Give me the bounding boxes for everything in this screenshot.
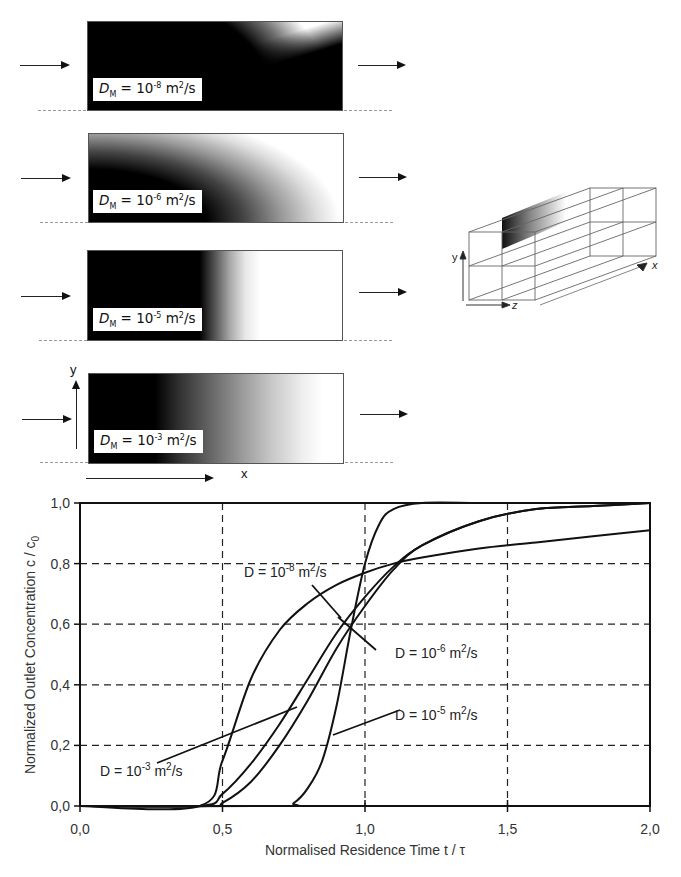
box-x-label: x [651,259,658,271]
outlet-arrow-1 [358,65,404,66]
svg-text:0,4: 0,4 [51,677,71,693]
svg-text:0,0: 0,0 [51,798,71,814]
svg-text:0,2: 0,2 [51,737,71,753]
svg-text:1,0: 1,0 [355,821,375,837]
annotation-d-1e-6: D = 10-6 m2/s [395,643,478,661]
outlet-arrow-4 [360,414,406,415]
inlet-arrow-1 [20,65,68,66]
channel-2-label: DM = 10-6 m2/s [93,190,202,213]
x-axis-arrow-icon [86,478,212,479]
channel-3-label: DM = 10-5 m2/s [93,308,202,331]
leader-line-2 [338,617,376,650]
breakthrough-chart: 0,00,51,01,52,00,00,20,40,60,81,0 Normal… [0,490,681,877]
y-axis-label: y [70,362,77,377]
leader-line-4 [157,707,297,763]
annotation-leaders [157,585,400,763]
x-axis-title: Normalised Residence Time t / τ [265,842,466,858]
annotation-d-1e-8: D = 10-8 m2/s [244,562,327,580]
symmetry-line-right-2 [345,222,393,223]
symmetry-line-right-3 [344,340,392,341]
channel-1-label: DM = 10-8 m2/s [93,78,202,101]
outlet-arrow-2 [359,177,405,178]
channel-4-label: DM = 10-3 m2/s [94,430,203,453]
svg-text:0,5: 0,5 [213,821,233,837]
annotation-d-1e-5: D = 10-5 m2/s [395,705,478,723]
symmetry-line-left-3 [39,340,87,341]
leader-line-3 [333,710,400,735]
x-axis-label: x [241,466,248,481]
symmetry-line-right-4 [345,462,393,463]
box-y-label: y [452,251,458,263]
svg-text:0,8: 0,8 [51,556,71,572]
annotation-d-1e-3: D = 10-3 m2/s [100,761,183,779]
svg-text:1,5: 1,5 [498,821,518,837]
svg-text:1,0: 1,0 [51,495,71,511]
symmetry-line-left-1 [38,110,86,111]
chart-tick-labels: 0,00,51,01,52,00,00,20,40,60,81,0 [51,495,660,837]
svg-text:0,0: 0,0 [70,821,90,837]
svg-text:0,6: 0,6 [51,616,71,632]
inlet-arrow-3 [21,296,69,297]
inlet-arrow-2 [21,178,69,179]
symmetry-line-left-4 [40,462,88,463]
box-3d-diagram: y z x [440,185,680,310]
svg-text:2,0: 2,0 [640,821,660,837]
box-z-label: z [511,299,518,310]
y-axis-arrowhead-icon [72,380,80,389]
symmetry-line-right-1 [344,110,392,111]
outlet-arrow-3 [359,292,405,293]
inlet-arrow-4 [22,419,70,420]
symmetry-line-left-2 [40,222,88,223]
y-axis-title: Normalized Outlet Concentration c / c0 [22,535,41,774]
y-axis-arrow-icon [76,385,77,449]
